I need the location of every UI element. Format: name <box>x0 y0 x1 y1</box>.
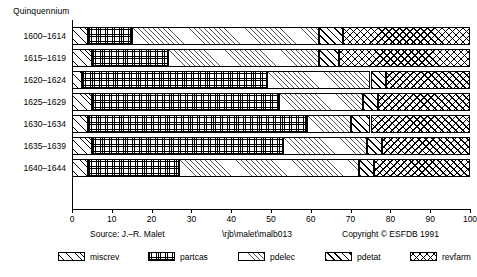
legend-label: pdetat <box>357 252 381 262</box>
legend-label: revfarm <box>442 252 471 262</box>
x-tick-mark <box>152 209 153 213</box>
bar-row: 1615–1619 <box>72 49 470 67</box>
bar-row: 1640–1644 <box>72 159 470 177</box>
x-tick-label: 50 <box>266 214 275 224</box>
x-tick-label: 40 <box>226 214 235 224</box>
legend-swatch-icon <box>410 252 437 261</box>
footer-source: Source: J.–R. Malet <box>90 229 165 239</box>
x-tick-mark <box>112 209 113 213</box>
bar-segment-miscrev <box>72 27 88 45</box>
x-tick-mark <box>430 209 431 213</box>
x-tick-mark <box>470 209 471 213</box>
bar-segment-pdelec <box>307 115 351 133</box>
bar-segment-pdelec <box>179 159 358 177</box>
bar-segment-pdetat <box>319 27 343 45</box>
category-label: 1635–1639 <box>23 141 66 151</box>
x-tick-label: 70 <box>346 214 355 224</box>
legend-label: miscrev <box>90 252 119 262</box>
x-tick-mark <box>271 209 272 213</box>
bar-segment-partcas <box>88 115 307 133</box>
bar-segment-miscrev <box>72 159 88 177</box>
category-label: 1630–1634 <box>23 119 66 129</box>
x-tick-mark <box>390 209 391 213</box>
plot-area: 1600–16141615–16191620–16241625–16291630… <box>72 22 470 207</box>
footer-copyright: Copyright © ESFDB 1991 <box>342 229 439 239</box>
stacked-bar <box>72 115 470 133</box>
bar-segment-miscrev <box>72 137 92 155</box>
stacked-bar <box>72 159 470 177</box>
bar-segment-pdetat <box>359 159 375 177</box>
legend-item-pdetat[interactable]: pdetat <box>325 250 381 263</box>
x-tick-mark <box>191 209 192 213</box>
bar-segment-revfarm <box>382 137 470 155</box>
x-tick-label: 100 <box>463 214 477 224</box>
chart-legend: miscrevpartcaspdelecpdetatrevfarm <box>0 250 475 266</box>
bar-segment-miscrev <box>72 49 92 67</box>
bar-segment-partcas <box>82 71 267 89</box>
bar-row: 1635–1639 <box>72 137 470 155</box>
bar-segment-partcas <box>92 49 168 67</box>
bar-segment-miscrev <box>72 115 88 133</box>
bar-segment-pdelec <box>279 93 363 111</box>
bar-segment-pdetat <box>319 49 339 67</box>
category-label: 1640–1644 <box>23 163 66 173</box>
stacked-bar <box>72 137 470 155</box>
bar-segment-revfarm <box>339 49 470 67</box>
bar-segment-pdelec <box>283 137 367 155</box>
x-tick-label: 30 <box>187 214 196 224</box>
bar-segment-miscrev <box>72 93 92 111</box>
bar-segment-partcas <box>92 93 279 111</box>
category-label: 1615–1619 <box>23 53 66 63</box>
bar-segment-revfarm <box>378 93 470 111</box>
bar-segment-miscrev <box>72 71 82 89</box>
legend-label: partcas <box>180 252 208 262</box>
legend-item-miscrev[interactable]: miscrev <box>58 250 119 263</box>
stacked-bar <box>72 71 470 89</box>
x-tick-label: 80 <box>386 214 395 224</box>
bar-segment-pdetat <box>363 93 379 111</box>
x-tick-label: 90 <box>425 214 434 224</box>
category-label: 1620–1624 <box>23 75 66 85</box>
legend-swatch-icon <box>148 252 175 261</box>
stacked-bar <box>72 49 470 67</box>
stacked-bar <box>72 93 470 111</box>
bar-segment-revfarm <box>374 159 470 177</box>
legend-swatch-icon <box>325 252 352 261</box>
bar-segment-pdetat <box>371 71 387 89</box>
legend-swatch-icon <box>58 252 85 261</box>
y-axis-title: Quinquennium <box>13 6 70 16</box>
bar-row: 1630–1634 <box>72 115 470 133</box>
bar-segment-pdetat <box>351 115 371 133</box>
x-tick-mark <box>311 209 312 213</box>
legend-item-partcas[interactable]: partcas <box>148 250 208 263</box>
category-label: 1600–1614 <box>23 31 66 41</box>
x-tick-mark <box>231 209 232 213</box>
x-tick-label: 0 <box>70 214 75 224</box>
category-label: 1625–1629 <box>23 97 66 107</box>
bar-segment-revfarm <box>386 71 470 89</box>
legend-label: pdelec <box>270 252 295 262</box>
x-tick-label: 10 <box>107 214 116 224</box>
bar-segment-revfarm <box>343 27 470 45</box>
bar-segment-pdetat <box>367 137 383 155</box>
stacked-bar <box>72 27 470 45</box>
bar-segment-partcas <box>88 159 180 177</box>
x-tick-mark <box>351 209 352 213</box>
x-tick-mark <box>72 209 73 213</box>
bar-segment-partcas <box>92 137 283 155</box>
x-tick-label: 60 <box>306 214 315 224</box>
bar-segment-revfarm <box>371 115 471 133</box>
legend-item-pdelec[interactable]: pdelec <box>238 250 295 263</box>
bar-row: 1620–1624 <box>72 71 470 89</box>
x-tick-label: 20 <box>147 214 156 224</box>
bar-segment-pdelec <box>267 71 370 89</box>
legend-item-revfarm[interactable]: revfarm <box>410 250 471 263</box>
chart-footer: Source: J.–R. Malet \rjb\malet\malb013 C… <box>0 229 475 243</box>
footer-file-path: \rjb\malet\malb013 <box>222 229 292 239</box>
bar-segment-pdelec <box>168 49 319 67</box>
bar-row: 1600–1614 <box>72 27 470 45</box>
legend-swatch-icon <box>238 252 265 261</box>
bar-row: 1625–1629 <box>72 93 470 111</box>
bar-segment-pdelec <box>132 27 319 45</box>
